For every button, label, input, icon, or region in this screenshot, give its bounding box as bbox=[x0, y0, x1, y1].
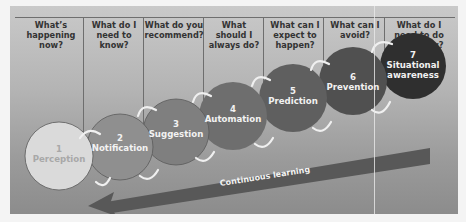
stage-7-label: 7 Situational awareness bbox=[382, 50, 444, 80]
stage-6-label: 6 Prevention bbox=[320, 72, 386, 92]
divider-artifact bbox=[374, 6, 375, 214]
maturity-diagram: What’s happening now? What do I need to … bbox=[10, 6, 458, 214]
stage-1-label: 1 Perception bbox=[24, 144, 94, 164]
stage-5-label: 5 Prediction bbox=[260, 86, 326, 106]
stage-4-label: 4 Automation bbox=[199, 104, 267, 124]
